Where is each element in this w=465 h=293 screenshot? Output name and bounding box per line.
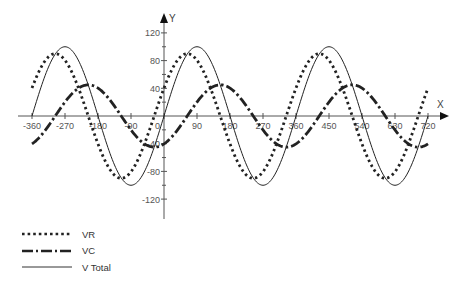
y-tick-label: -120 [142,195,160,205]
x-tick-label: -360 [23,121,41,131]
y-tick-label: 40 [150,84,160,94]
x-tick-label: 720 [420,121,435,131]
dotted-line-icon [22,231,72,237]
x-tick-label: 450 [321,121,336,131]
y-axis-arrow-icon [160,13,168,23]
y-tick-label: 120 [145,28,160,38]
legend-item-vtotal: V Total [22,259,111,276]
x-axis-arrow-icon [440,112,449,120]
y-tick-label: 80 [150,56,160,66]
y-tick-label: -80 [147,167,160,177]
x-tick-label: 0 [155,121,160,131]
legend: VR VC V Total [22,226,111,276]
solid-line-icon [22,264,72,270]
legend-label: V Total [82,262,111,273]
x-tick-label: 360 [288,121,303,131]
x-tick-label: 90 [192,121,202,131]
y-axis-label: Y [169,13,176,24]
dash-dot-line-icon [22,248,72,254]
legend-item-vr: VR [22,226,111,243]
legend-label: VC [82,245,95,256]
legend-item-vc: VC [22,243,111,260]
x-axis-label: X [437,99,444,110]
legend-label: VR [82,229,95,240]
x-tick-label: -270 [56,121,74,131]
